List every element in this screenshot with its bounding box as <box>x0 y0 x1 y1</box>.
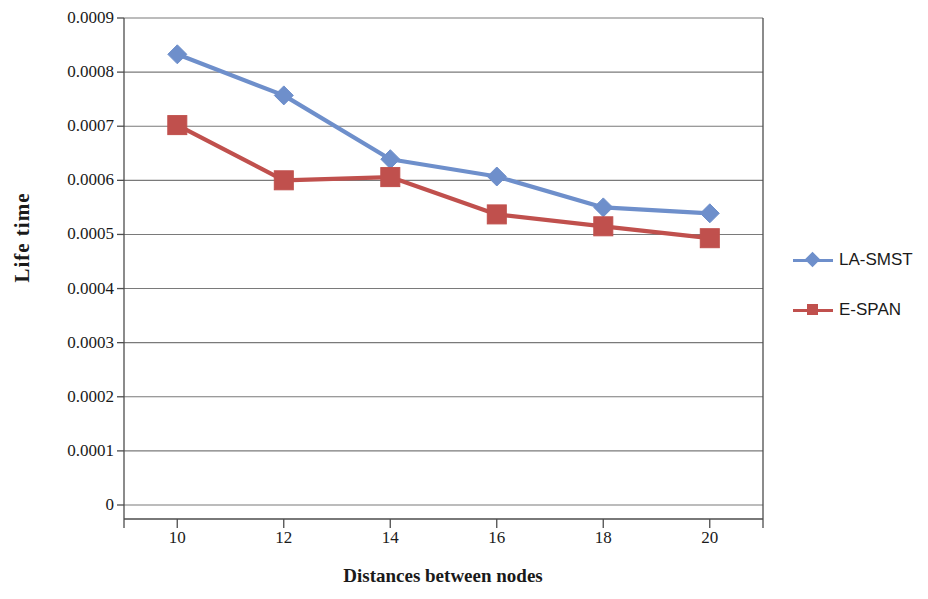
data-point-marker <box>594 217 613 236</box>
x-axis-title: Distances between nodes <box>120 565 766 587</box>
data-point-marker <box>381 150 400 169</box>
data-point-marker <box>168 116 187 135</box>
plot-area <box>0 0 928 599</box>
data-point-marker <box>487 205 506 224</box>
legend-entry[interactable]: E-SPAN <box>793 296 928 324</box>
series-e-span <box>168 116 720 248</box>
series-line <box>177 125 710 238</box>
chart-figure: Life time 00.00010.00020.00030.00040.000… <box>0 0 928 599</box>
chart-legend: LA-SMSTE-SPAN <box>793 246 928 346</box>
square-marker-icon <box>793 302 833 318</box>
data-point-marker <box>381 168 400 187</box>
data-point-marker <box>700 229 719 248</box>
data-point-marker <box>274 86 293 105</box>
legend-marker <box>805 252 821 268</box>
data-point-marker <box>168 45 187 64</box>
legend-marker <box>807 304 818 315</box>
data-point-marker <box>594 198 613 217</box>
data-point-marker <box>487 167 506 186</box>
legend-label: LA-SMST <box>839 250 913 270</box>
series-line <box>177 54 710 213</box>
data-point-marker <box>274 171 293 190</box>
data-point-marker <box>700 204 719 223</box>
legend-entry[interactable]: LA-SMST <box>793 246 928 274</box>
diamond-marker-icon <box>793 252 833 268</box>
legend-label: E-SPAN <box>839 300 901 320</box>
